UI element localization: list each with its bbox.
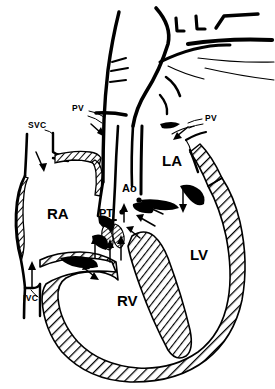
heart-anatomy-illustration: SVC IVC PV PV RA RV LA LV Ao PT xyxy=(0,0,275,389)
label-lv: LV xyxy=(190,246,208,263)
label-pv-left: PV xyxy=(72,103,84,113)
heart-diagram-figure: SVC IVC PV PV RA RV LA LV Ao PT xyxy=(0,0,275,389)
label-la: LA xyxy=(162,152,182,169)
label-ivc: IVC xyxy=(23,293,38,303)
la-medial-wall xyxy=(141,126,142,194)
label-rv: RV xyxy=(117,292,138,309)
left-coronary-ostium-dot xyxy=(136,197,141,202)
label-svc: SVC xyxy=(28,120,46,130)
pulmonary-annulus-line xyxy=(100,220,116,221)
label-ao: Ao xyxy=(122,182,137,194)
diagram-background xyxy=(0,0,275,389)
label-ra: RA xyxy=(47,205,69,222)
label-pv-right: PV xyxy=(205,113,217,123)
label-pt: PT xyxy=(99,207,113,219)
aortic-root-left-wall xyxy=(132,126,133,186)
